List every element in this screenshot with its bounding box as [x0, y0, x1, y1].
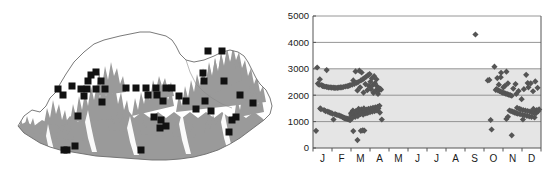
occurrence-marker — [61, 147, 68, 154]
occurrence-marker — [85, 78, 92, 85]
shaded-value-band — [313, 69, 541, 148]
occurrence-marker — [60, 92, 67, 99]
y-tick-label: 4000 — [288, 37, 309, 48]
x-tick-label: M — [356, 153, 364, 164]
occurrence-marker — [81, 93, 88, 100]
occurrence-marker — [55, 86, 62, 93]
occurrence-marker — [219, 48, 226, 55]
occurrence-marker — [176, 93, 183, 100]
occurrence-marker — [169, 85, 176, 92]
occurrence-marker — [250, 100, 257, 107]
occurrence-marker — [84, 86, 91, 93]
occurrence-marker — [102, 86, 109, 93]
occurrence-marker — [93, 69, 100, 76]
occurrence-marker — [143, 85, 150, 92]
occurrence-marker — [78, 86, 85, 93]
occurrence-marker — [138, 147, 145, 154]
occurrence-marker — [221, 78, 228, 85]
y-tick-label: 3000 — [288, 63, 309, 74]
occurrence-marker — [163, 123, 170, 130]
x-tick-label: J — [320, 153, 325, 164]
occurrence-marker — [69, 83, 76, 90]
occurrence-marker — [154, 92, 161, 99]
occurrence-marker — [158, 117, 165, 124]
occurrence-marker — [153, 85, 160, 92]
occurrence-marker — [160, 98, 167, 105]
occurrence-marker — [205, 48, 212, 55]
x-tick-label: M — [394, 153, 402, 164]
occurrence-marker — [133, 85, 140, 92]
occurrence-marker — [157, 125, 164, 132]
occurrence-marker — [193, 106, 200, 113]
y-tick-label: 2000 — [288, 90, 309, 101]
x-tick-label: A — [452, 153, 459, 164]
x-tick-label: O — [490, 153, 498, 164]
y-tick-label: 1000 — [288, 116, 309, 127]
distribution-map-panel — [0, 0, 278, 173]
occurrence-marker — [226, 129, 233, 136]
x-tick-label: F — [338, 153, 344, 164]
occurrence-marker — [208, 108, 215, 115]
x-tick-label: J — [434, 153, 439, 164]
occurrence-marker — [163, 85, 170, 92]
occurrence-marker — [202, 98, 209, 105]
occurrence-marker — [123, 85, 130, 92]
occurrence-marker — [183, 98, 190, 105]
figure-container: 010002000300040005000 JFMAMJJASOND — [0, 0, 551, 173]
x-tick-label: A — [376, 153, 383, 164]
occurrence-marker — [237, 92, 244, 99]
occurrence-marker — [99, 99, 106, 106]
occurrence-marker — [145, 92, 152, 99]
occurrence-marker — [200, 70, 207, 77]
occurrence-marker — [151, 114, 158, 121]
occurrence-marker — [75, 113, 82, 120]
occurrence-marker — [201, 78, 208, 85]
elevation-month-scatter-panel: 010002000300040005000 JFMAMJJASOND — [278, 0, 551, 173]
x-tick-label: N — [509, 153, 516, 164]
occurrence-marker — [72, 143, 79, 150]
bhutan-distribution-map — [0, 0, 278, 173]
x-tick-label: J — [415, 153, 420, 164]
elevation-by-month-chart: 010002000300040005000 JFMAMJJASOND — [278, 0, 551, 173]
occurrence-marker — [98, 78, 105, 85]
occurrence-marker — [93, 86, 100, 93]
occurrence-marker — [233, 114, 240, 121]
y-tick-label: 5000 — [288, 10, 309, 21]
y-tick-label: 0 — [304, 142, 309, 153]
x-tick-label: S — [471, 153, 478, 164]
x-tick-label: D — [528, 153, 535, 164]
